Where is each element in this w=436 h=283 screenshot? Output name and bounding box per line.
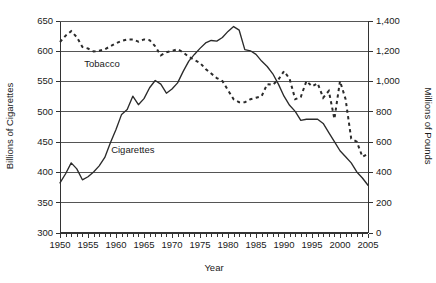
x-tick-label: 1985 xyxy=(245,239,266,250)
x-axis-title: Year xyxy=(204,262,223,273)
x-tick-label: 1955 xyxy=(77,239,98,250)
y-left-tick-label: 300 xyxy=(37,227,53,238)
x-tick-label: 1980 xyxy=(217,239,238,250)
x-tick-label: 1995 xyxy=(301,239,322,250)
x-tick-label: 1960 xyxy=(105,239,126,250)
y-left-tick-label: 600 xyxy=(37,45,53,56)
y-right-tick-label: 1,200 xyxy=(376,45,400,56)
chart-container: 300350400450500550600650 02004006008001,… xyxy=(0,0,436,283)
x-tick-label: 1990 xyxy=(273,239,294,250)
axis-lines-group xyxy=(60,21,369,234)
y-right-tick-label: 1,400 xyxy=(376,15,400,26)
x-tick-label: 1965 xyxy=(133,239,154,250)
tickmarks-group xyxy=(56,22,373,238)
y-left-tick-label: 650 xyxy=(37,15,53,26)
annotations-group: TobaccoCigarettes xyxy=(84,58,154,154)
y-left-tick-label: 350 xyxy=(37,197,53,208)
y-right-tick-label: 600 xyxy=(376,136,392,147)
y-right-tick-label: 400 xyxy=(376,166,392,177)
series-group xyxy=(60,27,368,186)
x-tick-label: 1975 xyxy=(189,239,210,250)
series-line-tobacco xyxy=(60,31,368,157)
x-tick-label: 2000 xyxy=(329,239,350,250)
y-right-tick-label: 200 xyxy=(376,197,392,208)
y-left-tick-labels: 300350400450500550600650 xyxy=(37,15,53,238)
y-left-tick-label: 550 xyxy=(37,75,53,86)
y-left-tick-label: 400 xyxy=(37,166,53,177)
chart-svg: 300350400450500550600650 02004006008001,… xyxy=(0,0,436,283)
y-left-tick-label: 500 xyxy=(37,106,53,117)
y-right-axis-title: Millions of Pounds xyxy=(423,87,434,164)
y-right-tick-labels: 02004006008001,0001,2001,400 xyxy=(376,15,400,238)
y-right-tick-label: 0 xyxy=(376,227,381,238)
x-tick-label: 1970 xyxy=(161,239,182,250)
x-tick-label: 2005 xyxy=(357,239,378,250)
series-annotation-cigarettes: Cigarettes xyxy=(111,144,155,155)
y-right-tick-label: 1,000 xyxy=(376,75,400,86)
y-left-tick-label: 450 xyxy=(37,136,53,147)
series-line-cigarettes xyxy=(60,27,368,186)
y-right-tick-label: 800 xyxy=(376,106,392,117)
x-tick-labels: 1950195519601965197019751980198519901995… xyxy=(49,239,378,250)
series-annotation-tobacco: Tobacco xyxy=(84,58,119,69)
x-tick-label: 1950 xyxy=(49,239,70,250)
y-left-axis-title: Billions of Cigarettes xyxy=(4,82,15,169)
